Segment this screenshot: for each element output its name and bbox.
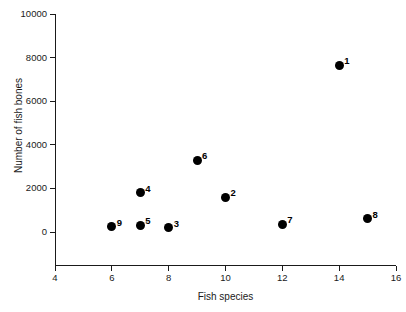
x-axis-title: Fish species — [55, 291, 396, 302]
data-point-marker — [278, 220, 287, 229]
x-tick-mark — [55, 266, 56, 271]
y-tick-label: 4000 — [26, 140, 47, 150]
data-point-marker — [136, 188, 145, 197]
y-tick-label: 2000 — [26, 183, 47, 193]
y-axis-line — [55, 14, 56, 266]
data-point-label: 2 — [231, 188, 236, 198]
y-tick-label: 0 — [42, 227, 47, 237]
data-point-marker — [221, 193, 230, 202]
x-tick-label: 6 — [92, 273, 132, 283]
y-tick-mark — [50, 101, 55, 102]
data-point-label: 7 — [287, 215, 292, 225]
x-tick-label: 14 — [319, 273, 359, 283]
x-tick-mark — [225, 266, 226, 271]
data-point-label: 8 — [373, 210, 378, 220]
data-point-marker — [136, 221, 145, 230]
x-tick-label: 8 — [149, 273, 189, 283]
x-tick-label: 16 — [376, 273, 406, 283]
x-tick-label: 12 — [262, 273, 302, 283]
y-tick-mark — [50, 232, 55, 233]
data-point-label: 3 — [174, 219, 179, 229]
data-point-label: 4 — [145, 184, 150, 194]
data-point-marker — [363, 214, 372, 223]
x-tick-mark — [168, 266, 169, 271]
data-point-label: 5 — [145, 216, 150, 226]
x-tick-mark — [282, 266, 283, 271]
scatter-plot: 0200040006000800010000 46810121416 12345… — [0, 0, 406, 312]
y-tick-label: 6000 — [26, 96, 47, 106]
data-point-label: 1 — [344, 56, 349, 66]
x-tick-mark — [111, 266, 112, 271]
y-tick-mark — [50, 188, 55, 189]
y-tick-label: 8000 — [26, 53, 47, 63]
y-tick-mark — [50, 14, 55, 15]
x-tick-label: 4 — [35, 273, 75, 283]
y-tick-label: 10000 — [21, 9, 47, 19]
x-tick-mark — [396, 266, 397, 271]
data-point-marker — [107, 222, 116, 231]
x-tick-label: 10 — [206, 273, 246, 283]
data-point-marker — [193, 156, 202, 165]
y-axis-title: Number of fish bones — [13, 56, 24, 196]
data-point-marker — [164, 223, 173, 232]
data-point-marker — [335, 61, 344, 70]
y-tick-mark — [50, 144, 55, 145]
data-point-label: 6 — [202, 151, 207, 161]
data-point-label: 9 — [117, 218, 122, 228]
y-tick-mark — [50, 57, 55, 58]
x-tick-mark — [339, 266, 340, 271]
